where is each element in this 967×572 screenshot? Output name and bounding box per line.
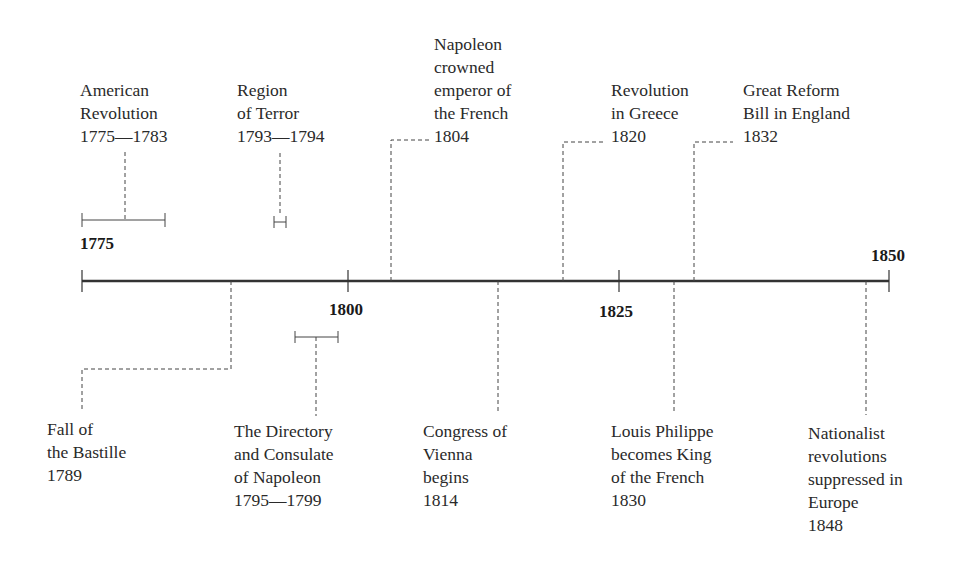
tick-label-1800: 1800 bbox=[329, 300, 363, 320]
event-reign-of-terror: Region of Terror 1793—1794 bbox=[237, 79, 325, 148]
event-american-revolution: American Revolution 1775—1783 bbox=[80, 79, 168, 148]
event-napoleon-crowned: Napoleon crowned emperor of the French 1… bbox=[434, 33, 511, 148]
end-year-label: 1850 bbox=[871, 246, 905, 266]
timeline-diagram: 1775 1850 1800 1825 American Revolution … bbox=[0, 0, 967, 572]
event-louis-philippe: Louis Philippe becomes King of the Frenc… bbox=[611, 420, 714, 512]
tick-label-1825: 1825 bbox=[599, 302, 633, 322]
event-directory-consulate: The Directory and Consulate of Napoleon … bbox=[234, 420, 334, 512]
event-nationalist-revolutions: Nationalist revolutions suppressed in Eu… bbox=[808, 422, 903, 537]
event-great-reform-bill: Great Reform Bill in England 1832 bbox=[743, 79, 850, 148]
event-fall-of-bastille: Fall of the Bastille 1789 bbox=[47, 418, 126, 487]
event-congress-of-vienna: Congress of Vienna begins 1814 bbox=[423, 420, 507, 512]
event-revolution-greece: Revolution in Greece 1820 bbox=[611, 79, 689, 148]
start-year-label: 1775 bbox=[80, 234, 114, 254]
